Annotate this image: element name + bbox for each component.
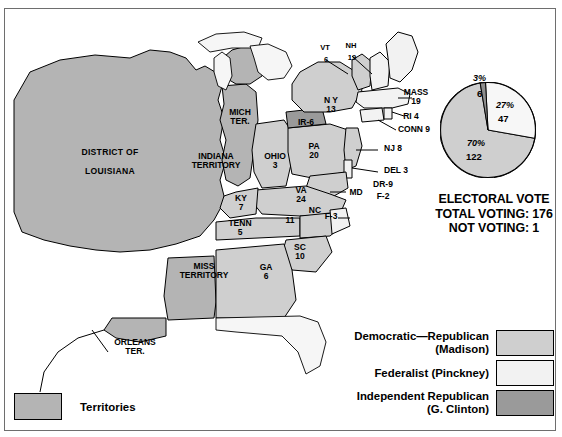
label-maryland-federalist: F-2 xyxy=(366,192,400,201)
legend-swatch-territories xyxy=(14,393,62,420)
rhode-island-shape xyxy=(384,108,392,119)
label-new-hampshire-votes: 19 xyxy=(344,54,360,62)
legend-territories-label: Territories xyxy=(62,401,136,413)
pie-label-federalist-value: 47 xyxy=(498,113,509,124)
label-pennsylvania: PA20 xyxy=(300,142,328,160)
label-new-york: N Y13 xyxy=(316,96,346,114)
label-orleans-territory: ORLEANSTER. xyxy=(104,338,166,356)
party-legend: Democratic—Republican(Madison) Federalis… xyxy=(332,330,554,420)
pie-label-ind-rep-value: 6 xyxy=(477,88,482,99)
label-new-jersey: NJ 8 xyxy=(376,144,410,153)
legend-independent-republican: Independent Republican(G. Clinton) xyxy=(332,390,554,416)
legend-swatch-independent-republican xyxy=(496,390,554,416)
label-indiana-territory: INDIANATERRITORY xyxy=(186,152,246,170)
label-massachusetts: MASS19 xyxy=(398,88,434,106)
label-delaware: DEL 3 xyxy=(376,166,416,175)
maine-shape xyxy=(386,32,418,82)
leader-del xyxy=(352,168,378,172)
electoral-total-voting: TOTAL VOTING: 176 xyxy=(424,207,562,222)
gulf-coast-outline xyxy=(40,330,104,392)
label-maryland-democratic-republican: DR-9 xyxy=(366,180,400,189)
florida-shape xyxy=(216,316,326,374)
legend-swatch-democratic-republican xyxy=(496,330,554,356)
label-new-hampshire: NH xyxy=(340,42,362,50)
pie-svg xyxy=(440,82,536,178)
label-georgia: GA6 xyxy=(252,263,280,281)
label-connecticut: CONN 9 xyxy=(390,125,438,134)
label-kentucky: KY7 xyxy=(228,194,254,212)
electoral-vote-pie-chart: 3% 6 27% 47 70% 122 xyxy=(440,82,536,178)
legend-federalist: Federalist (Pinckney) xyxy=(332,360,554,386)
label-virginia: VA24 xyxy=(288,186,314,204)
pie-label-dem-rep-pct: 70% xyxy=(467,138,485,148)
label-new-york-independent-republican: IR-6 xyxy=(290,118,322,127)
label-ohio: OHIO3 xyxy=(258,152,292,170)
label-north-carolina-federalist: F-3 xyxy=(320,212,342,221)
pie-label-federalist-pct: 27% xyxy=(496,100,514,110)
georgia-shape xyxy=(216,244,296,318)
legend-democratic-republican-label: Democratic—Republican(Madison) xyxy=(354,330,496,356)
pie-label-dem-rep-value: 122 xyxy=(466,151,482,162)
legend-swatch-federalist xyxy=(496,360,554,386)
label-district-of-louisiana: DISTRICT OFLOUISIANA xyxy=(55,148,165,176)
connecticut-shape xyxy=(360,108,384,122)
label-vermont: VT xyxy=(314,44,336,52)
label-rhode-island: RI 4 xyxy=(396,112,426,121)
label-tennessee: TENN5 xyxy=(218,219,262,237)
label-michigan-territory: MICHTER. xyxy=(220,108,260,126)
electoral-map-figure: .dr{fill:#cfcfcf;stroke:#000;stroke-widt… xyxy=(0,0,562,437)
territories-legend: Territories xyxy=(14,393,136,420)
label-south-carolina: SC10 xyxy=(286,243,314,261)
new-hampshire-shape xyxy=(370,52,390,90)
label-mississippi-territory: MISSTERRITORY xyxy=(168,262,240,280)
electoral-vote-summary: ELECTORAL VOTE TOTAL VOTING: 176 NOT VOT… xyxy=(424,192,562,236)
legend-democratic-republican: Democratic—Republican(Madison) xyxy=(332,330,554,356)
legend-federalist-label: Federalist (Pinckney) xyxy=(374,367,496,380)
label-maryland: MD xyxy=(344,188,368,197)
indiana-territory-shape xyxy=(220,84,258,186)
label-vermont-votes: 6 xyxy=(318,56,334,64)
pie-label-ind-rep-pct: 3% xyxy=(473,73,486,83)
legend-independent-republican-label: Independent Republican(G. Clinton) xyxy=(357,390,496,416)
electoral-vote-heading: ELECTORAL VOTE xyxy=(424,192,562,207)
pie-slice-federalist xyxy=(486,82,536,138)
label-north-carolina-votes: 11 xyxy=(280,216,300,225)
electoral-not-voting: NOT VOTING: 1 xyxy=(424,221,562,236)
